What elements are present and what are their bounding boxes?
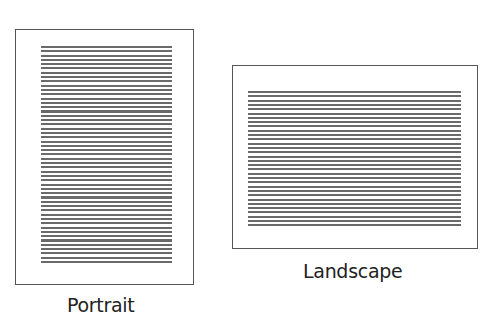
- portrait-text-lines: [41, 46, 172, 265]
- landscape-text-lines: [248, 91, 461, 227]
- landscape-label: Landscape: [303, 260, 402, 282]
- portrait-label: Portrait: [67, 294, 134, 316]
